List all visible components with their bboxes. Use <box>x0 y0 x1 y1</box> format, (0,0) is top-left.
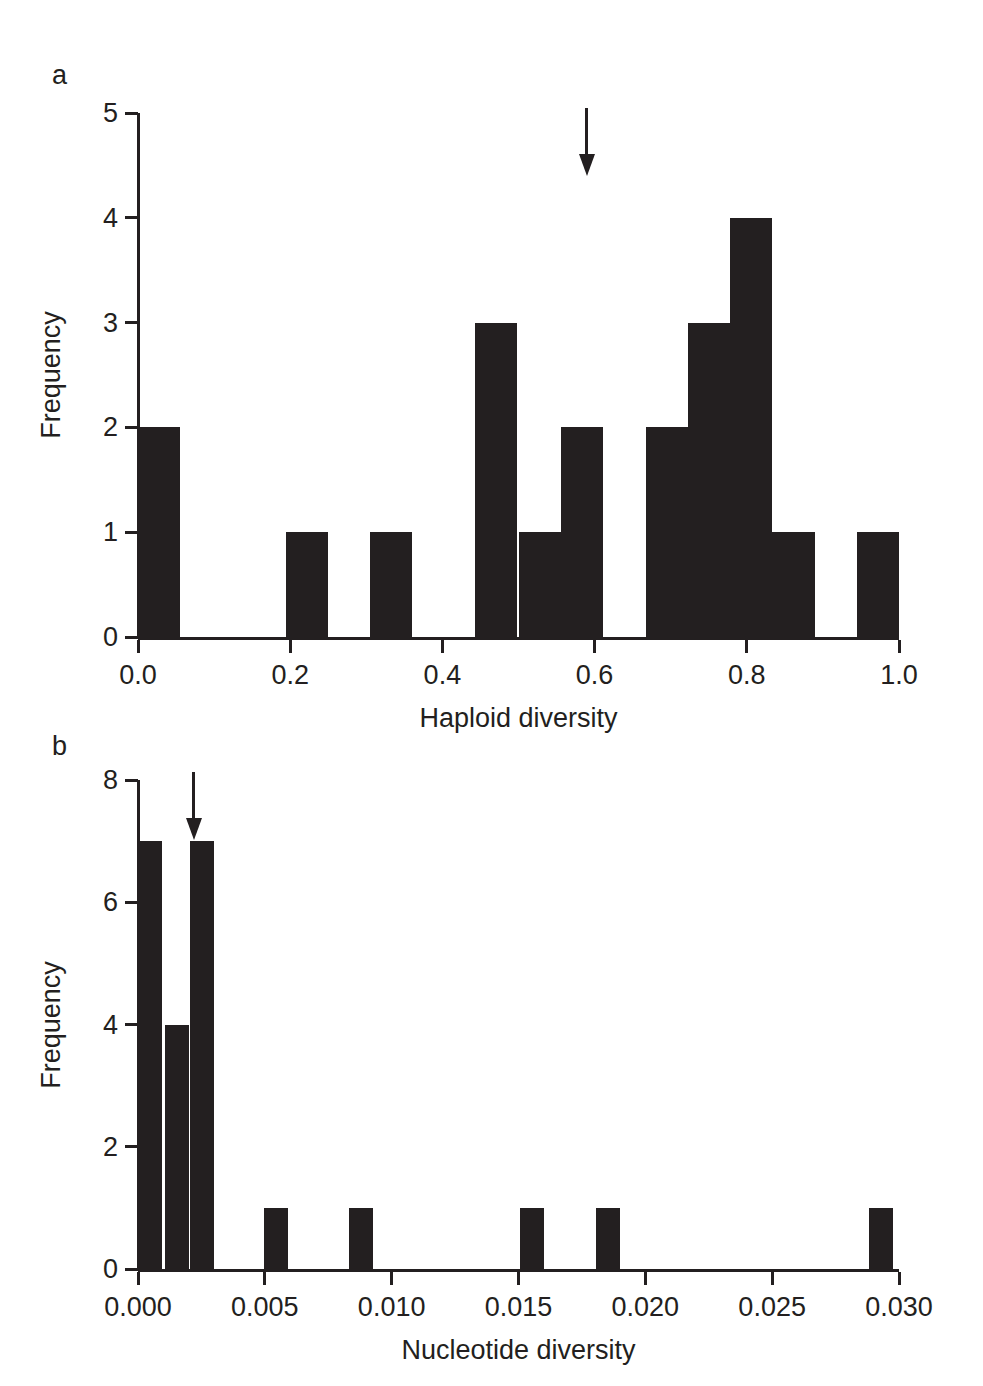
x-axis-tick <box>644 1272 647 1285</box>
x-axis-tick <box>137 640 140 653</box>
histogram-bar <box>165 1025 189 1270</box>
histogram-bar <box>349 1208 373 1269</box>
arrow-head-icon <box>186 818 202 840</box>
x-axis-tick <box>771 1272 774 1285</box>
x-axis-tick-label: 0.0 <box>119 662 157 689</box>
histogram-bar <box>646 427 688 637</box>
x-axis-tick <box>390 1272 393 1285</box>
figure-container: a 0123450.00.20.40.60.81.0Haploid divers… <box>0 0 983 1386</box>
x-axis-tick <box>441 640 444 653</box>
y-axis-tick <box>125 426 138 429</box>
x-axis-tick <box>745 640 748 653</box>
y-axis-tick <box>125 531 138 534</box>
x-axis-tick-label: 0.2 <box>271 662 309 689</box>
y-axis-tick-label: 0 <box>72 1256 118 1283</box>
x-axis-tick <box>137 1272 140 1285</box>
panel-b-label: b <box>52 733 67 760</box>
x-axis-tick-label: 0.000 <box>104 1294 172 1321</box>
arrow-head-icon <box>579 154 595 176</box>
x-axis-tick-label: 0.015 <box>485 1294 553 1321</box>
y-axis-tick <box>125 216 138 219</box>
y-axis-tick <box>125 1023 138 1026</box>
y-axis-tick-label: 4 <box>72 1011 118 1038</box>
x-axis-tick <box>289 640 292 653</box>
y-axis-tick <box>125 112 138 115</box>
panel-a-label: a <box>52 62 67 89</box>
histogram-bar <box>596 1208 620 1269</box>
x-axis-tick-label: 0.030 <box>865 1294 933 1321</box>
y-axis-tick-label: 6 <box>72 889 118 916</box>
histogram-bar <box>688 323 730 637</box>
x-axis-tick-label: 0.020 <box>612 1294 680 1321</box>
x-axis-tick-label: 0.025 <box>738 1294 806 1321</box>
histogram-bar <box>138 841 162 1269</box>
y-axis-tick-label: 2 <box>72 414 118 441</box>
x-axis-tick <box>517 1272 520 1285</box>
x-axis-tick <box>263 1272 266 1285</box>
y-axis-tick <box>125 1145 138 1148</box>
y-axis-tick <box>125 321 138 324</box>
y-axis-title: Frequency <box>38 311 65 439</box>
panel-b: b 024680.0000.0050.0100.0150.0200.0250.0… <box>0 690 983 1386</box>
histogram-bar <box>370 532 412 637</box>
x-axis-tick-label: 0.005 <box>231 1294 299 1321</box>
histogram-bar <box>869 1208 893 1269</box>
histogram-bar <box>138 427 180 637</box>
y-axis-tick <box>125 1268 138 1271</box>
x-axis-tick-label: 1.0 <box>880 662 918 689</box>
mean-indicator-arrow <box>182 772 206 840</box>
y-axis-title: Frequency <box>38 961 65 1089</box>
x-axis-line <box>138 637 899 640</box>
x-axis-tick-label: 0.010 <box>358 1294 426 1321</box>
histogram-bar <box>264 1208 288 1269</box>
histogram-bar <box>857 532 899 637</box>
mean-indicator-arrow <box>575 108 599 176</box>
y-axis-tick-label: 2 <box>72 1133 118 1160</box>
x-axis-title: Nucleotide diversity <box>401 1337 635 1364</box>
x-axis-tick <box>898 640 901 653</box>
x-axis-tick-label: 0.4 <box>424 662 462 689</box>
histogram-bar <box>519 532 561 637</box>
histogram-bar <box>520 1208 544 1269</box>
y-axis-tick-label: 1 <box>72 519 118 546</box>
histogram-bar <box>286 532 328 637</box>
histogram-bar <box>475 323 517 637</box>
y-axis-tick-label: 4 <box>72 204 118 231</box>
y-axis-tick-label: 5 <box>72 100 118 127</box>
y-axis-tick <box>125 901 138 904</box>
histogram-bar <box>561 427 603 637</box>
y-axis-tick-label: 0 <box>72 624 118 651</box>
y-axis-tick <box>125 636 138 639</box>
x-axis-tick <box>898 1272 901 1285</box>
x-axis-tick-label: 0.8 <box>728 662 766 689</box>
arrow-shaft <box>192 772 195 820</box>
y-axis-line <box>137 113 140 639</box>
histogram-bar <box>730 218 772 637</box>
x-axis-tick <box>593 640 596 653</box>
y-axis-tick <box>125 779 138 782</box>
arrow-shaft <box>585 108 588 156</box>
histogram-bar <box>772 532 814 637</box>
x-axis-tick-label: 0.6 <box>576 662 614 689</box>
y-axis-tick-label: 3 <box>72 309 118 336</box>
y-axis-tick-label: 8 <box>72 767 118 794</box>
histogram-bar <box>190 841 214 1269</box>
panel-a: a 0123450.00.20.40.60.81.0Haploid divers… <box>0 0 983 720</box>
